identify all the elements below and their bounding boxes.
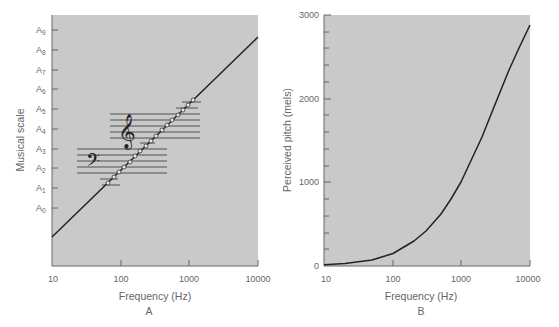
panel-b-y-tick-labels: 0 1000 2000 3000 bbox=[299, 10, 319, 271]
y-tick-a3: A3 bbox=[36, 144, 46, 155]
x-tick-100: 100 bbox=[113, 274, 128, 284]
panel-a-plot-area bbox=[52, 15, 258, 266]
y-tick-a1: A1 bbox=[36, 183, 46, 194]
panel-a-x-tick-labels: 10 100 1000 10000 bbox=[48, 274, 271, 284]
figure: A0 A1 A2 A3 A4 A5 A6 A7 A8 A9 10 100 100… bbox=[0, 0, 559, 327]
y-tick-a2: A2 bbox=[36, 163, 46, 174]
y-tick-0: 0 bbox=[314, 261, 319, 271]
y-tick-a8: A8 bbox=[36, 45, 46, 56]
panel-a-y-tick-labels: A0 A1 A2 A3 A4 A5 A6 A7 A8 A9 bbox=[36, 25, 46, 214]
x-tick-10: 10 bbox=[321, 274, 331, 284]
y-tick-a6: A6 bbox=[36, 84, 46, 95]
panel-a: A0 A1 A2 A3 A4 A5 A6 A7 A8 A9 10 100 100… bbox=[14, 15, 271, 317]
bass-clef-icon: 𝄢 bbox=[86, 150, 100, 175]
panel-b-label: B bbox=[417, 305, 424, 317]
panel-a-y-axis-title: Musical scale bbox=[14, 108, 26, 171]
y-tick-1000: 1000 bbox=[299, 177, 319, 187]
y-tick-a4: A4 bbox=[36, 124, 46, 135]
y-tick-a5: A5 bbox=[36, 104, 46, 115]
y-tick-a9: A9 bbox=[36, 25, 46, 36]
panel-b-y-axis-title: Perceived pitch (mels) bbox=[281, 88, 293, 192]
x-tick-10000: 10000 bbox=[245, 274, 270, 284]
panel-b: 0 1000 2000 3000 10 100 1000 10000 Perce… bbox=[281, 10, 541, 317]
y-tick-a0: A0 bbox=[36, 203, 46, 214]
treble-clef-icon: 𝄞 bbox=[118, 113, 136, 150]
x-tick-10000: 10000 bbox=[515, 274, 540, 284]
panel-b-x-tick-labels: 10 100 1000 10000 bbox=[321, 274, 541, 284]
panel-b-x-axis-title: Frequency (Hz) bbox=[385, 290, 457, 302]
y-tick-2000: 2000 bbox=[299, 94, 319, 104]
y-tick-3000: 3000 bbox=[299, 10, 319, 20]
panel-b-plot-area bbox=[324, 15, 530, 266]
x-tick-10: 10 bbox=[48, 274, 58, 284]
panel-a-x-axis-title: Frequency (Hz) bbox=[119, 290, 191, 302]
x-tick-100: 100 bbox=[385, 274, 400, 284]
x-tick-1000: 1000 bbox=[179, 274, 199, 284]
panel-a-label: A bbox=[145, 305, 152, 317]
y-tick-a7: A7 bbox=[36, 65, 46, 76]
x-tick-1000: 1000 bbox=[451, 274, 471, 284]
